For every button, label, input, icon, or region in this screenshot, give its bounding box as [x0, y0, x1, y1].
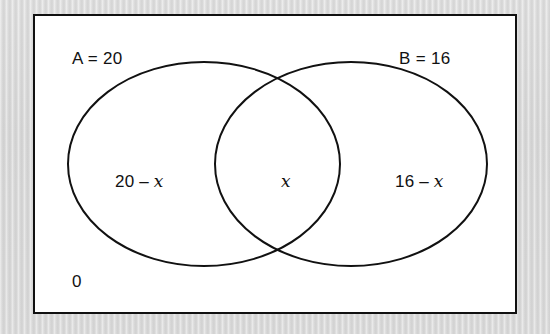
region-only-a-label: 20 – x — [115, 173, 164, 190]
set-a-label: A = 20 — [72, 50, 122, 67]
venn-diagram-figure: A = 20 B = 16 0 20 – x x 16 – x — [33, 14, 517, 314]
set-b-label: B = 16 — [399, 50, 450, 67]
region-only-b-label: 16 – x — [395, 173, 444, 190]
region-only-b-operator: – — [414, 172, 434, 191]
region-only-b-count: 16 — [395, 172, 414, 191]
region-only-a-variable: x — [154, 171, 164, 191]
region-only-b-variable: x — [434, 171, 444, 191]
region-intersection-label: x — [281, 173, 291, 190]
set-a-ellipse — [68, 62, 340, 266]
region-only-a-count: 20 — [115, 172, 134, 191]
set-b-ellipse — [215, 62, 487, 266]
universal-set-label: 0 — [72, 273, 81, 290]
region-intersection-variable: x — [281, 171, 291, 191]
region-only-a-operator: – — [134, 172, 154, 191]
